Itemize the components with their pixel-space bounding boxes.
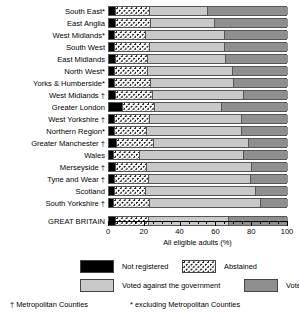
bar-segment-abst (114, 43, 149, 51)
axis-tick-minor (269, 221, 270, 224)
bar-row: Yorks & Humberside* (108, 78, 287, 89)
bar-segment-against (148, 175, 250, 183)
legend-label-abstained: Abstained (224, 262, 257, 271)
bar-segment-cons (255, 187, 288, 195)
bar-segment-abst (114, 127, 145, 135)
bar-row: West Yorkshire † (108, 114, 287, 125)
bar-segment-against (145, 31, 224, 39)
legend-label-voted-against: Voted against the government (122, 281, 220, 290)
bar-segment-cons (224, 43, 288, 51)
bar-row-label: East Midlands (57, 54, 105, 65)
bar-segment-cons (243, 151, 288, 159)
bar-row-label: Tyne and Wear † (47, 174, 105, 185)
bar-row-label: West Midlands † (49, 90, 105, 101)
bar-row: South West (108, 42, 287, 53)
legend-label-not-registered: Not registered (122, 262, 168, 271)
stacked-bar (108, 162, 287, 172)
axis-tick-major (180, 221, 181, 226)
bar-row-label: Greater Manchester † (31, 138, 105, 149)
bar-segment-abst (115, 7, 149, 15)
bar-segment-cons (241, 115, 288, 123)
bar-segment-abst (115, 55, 147, 63)
bar-segment-cons (214, 19, 288, 27)
bar-row-label: Northern Region* (46, 126, 105, 137)
axis-tick-major (287, 221, 288, 226)
bar-row: South East* (108, 6, 287, 17)
bar-segment-against (146, 163, 252, 171)
bar-segment-abst (114, 187, 144, 195)
stacked-bar (108, 114, 287, 124)
bar-row-label: Greater London (52, 102, 105, 113)
bar-row-label: West Midlands* (52, 30, 105, 41)
bar-segment-against (149, 43, 224, 51)
legend-swatch-voted-conservative (244, 279, 278, 292)
bar-segment-cons (260, 199, 288, 207)
bar-segment-cons (233, 79, 288, 87)
axis-tick-major (108, 221, 109, 226)
bar-row: Tyne and Wear † (108, 174, 287, 185)
x-axis-title: All eligible adults (%) (108, 238, 287, 247)
stacked-bar (108, 126, 287, 136)
bar-row-label: South East* (65, 6, 105, 17)
footnotes: † Metropolitan Counties * excluding Metr… (10, 300, 295, 314)
bar-segment-notreg (109, 103, 122, 111)
bar-segment-cons (225, 55, 288, 63)
bar-segment-against (150, 79, 233, 87)
bar-segment-abst (114, 79, 150, 87)
plot-area: South East*East AngliaWest Midlands*Sout… (108, 6, 287, 228)
axis-tick-label: 80 (247, 227, 255, 236)
legend: Not registered Abstained Voted against t… (10, 258, 289, 296)
axis-tick-label: 100 (281, 227, 294, 236)
bar-row: West Midlands † (108, 90, 287, 101)
axis-tick-minor (153, 221, 154, 224)
legend-label-voted-conservative: Voted Conservative (286, 281, 299, 290)
bar-row-label: South Yorkshire † (45, 198, 105, 209)
bar-row: East Anglia (108, 18, 287, 29)
bar-segment-abst (115, 91, 152, 99)
stacked-bar (108, 66, 287, 76)
bar-segment-cons (243, 91, 288, 99)
bar-row: Greater London (108, 102, 287, 113)
bar-row: North West* (108, 66, 287, 77)
axis-tick-minor (233, 221, 234, 224)
axis-tick-minor (278, 221, 279, 224)
axis-tick-minor (162, 221, 163, 224)
bar-row-label: South West (66, 42, 105, 53)
bar-segment-cons (251, 163, 288, 171)
bar-segment-against (147, 55, 225, 63)
bar-segment-notreg (109, 139, 116, 147)
stacked-bar (108, 90, 287, 100)
bar-row-label: Yorks & Humberside* (33, 78, 105, 89)
axis-tick-minor (206, 221, 207, 224)
bar-segment-against (149, 199, 260, 207)
bar-row: South Yorkshire † (108, 198, 287, 209)
stacked-bar (108, 78, 287, 88)
axis-tick-minor (198, 221, 199, 224)
bar-row: Northern Region* (108, 126, 287, 137)
bar-row: East Midlands (108, 54, 287, 65)
bar-segment-cons (250, 175, 288, 183)
axis-tick-minor (224, 221, 225, 224)
legend-swatch-not-registered (80, 260, 114, 273)
bar-segment-abst (113, 151, 139, 159)
axis-tick-label: 60 (211, 227, 219, 236)
axis-tick-label: 40 (175, 227, 183, 236)
legend-swatch-abstained (182, 260, 216, 273)
footnote-excluding: * excluding Metropolitan Counties (130, 300, 240, 309)
bar-segment-abst (114, 175, 148, 183)
stacked-bar (108, 54, 287, 64)
bar-segment-abst (113, 199, 149, 207)
stacked-bar (108, 6, 287, 16)
bar-segment-against (147, 67, 231, 75)
bar-segment-against (154, 103, 221, 111)
bar-segment-abst (114, 115, 149, 123)
bar-segment-against (150, 19, 214, 27)
axis-tick-minor (171, 221, 172, 224)
bar-segment-cons (207, 7, 288, 15)
stacked-bar (108, 102, 287, 112)
bar-row: West Midlands* (108, 30, 287, 41)
bar-segment-against (149, 7, 206, 15)
bar-row-label: East Anglia (67, 18, 105, 29)
bar-row: Greater Manchester † (108, 138, 287, 149)
bar-segment-against (145, 187, 255, 195)
